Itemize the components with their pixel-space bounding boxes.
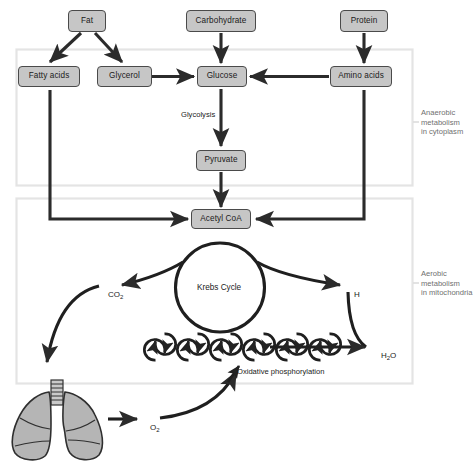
node-glucose[interactable]: Glucose [197,66,247,87]
oxphos-circle [210,334,241,360]
panel-aerobic-label: Aerobic metabolism in mitochondria [421,269,473,298]
co2-label-text: CO [108,290,120,299]
node-pyruvate[interactable]: Pyruvate [196,150,246,171]
arrow-co2-to-lungs [47,286,99,362]
arrow-amino-acids-to-acetyl-coa [256,90,364,219]
arrow-fatty-acids-to-acetyl-coa [50,90,188,219]
node-acetyl-coa-label: Acetyl CoA [200,215,242,223]
h-label: H [345,280,360,311]
oxidative-phosphorylation-label: Oxidative phosphorylation [237,367,324,377]
h2o-label-text: H [381,351,387,360]
oxphos-circle [177,334,208,360]
o2-subscript: 2 [156,427,159,433]
o2-label: O2 [141,413,159,444]
node-fat[interactable]: Fat [68,10,106,32]
h2o-subscript: 2 [387,355,390,361]
node-glucose-label: Glucose [207,72,238,80]
node-carbohydrate-label: Carbohydrate [196,17,247,25]
oxphos-circle [243,334,274,360]
panel-anaerobic-label: Anaerobic metabolism in cytoplasm [421,108,463,137]
h-label-text: H [354,290,360,299]
h2o-label: H2O [372,341,396,372]
node-fat-label: Fat [81,17,93,25]
node-protein-label: Protein [351,17,378,25]
node-protein[interactable]: Protein [340,10,388,32]
arrow-krebs-to-co2 [122,262,183,285]
arrow-fat-to-glycerol [95,33,122,62]
co2-subscript: 2 [120,294,123,300]
node-amino-acids[interactable]: Amino acids [330,66,392,87]
krebs-cycle-label: Krebs Cycle [197,283,241,294]
h2o-label-tail: O [390,351,396,360]
arrow-fat-to-fatty-acids [50,33,81,62]
node-acetyl-coa[interactable]: Acetyl CoA [191,209,251,229]
lungs-illustration [12,380,102,460]
node-fatty-acids-label: Fatty acids [29,72,70,80]
oxphos-circle [144,334,175,360]
node-glycerol-label: Glycerol [109,72,140,80]
arrow-krebs-to-h [257,262,340,285]
arrow-o2-to-oxphos [160,372,236,418]
glycolysis-label: Glycolysis [181,110,215,120]
co2-label: CO2 [99,280,123,311]
node-amino-acids-label: Amino acids [338,72,384,80]
node-fatty-acids[interactable]: Fatty acids [18,66,80,87]
node-pyruvate-label: Pyruvate [204,156,237,164]
metabolism-diagram: Fat Carbohydrate Protein Fatty acids Gly… [0,0,476,464]
node-glycerol[interactable]: Glycerol [97,66,152,87]
node-carbohydrate[interactable]: Carbohydrate [186,10,256,32]
